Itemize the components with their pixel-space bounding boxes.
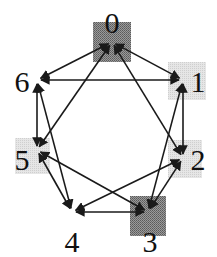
- node-label-6: 6: [15, 65, 30, 98]
- node-label-3: 3: [143, 225, 158, 257]
- graph-edges: [37, 44, 183, 212]
- node-highlight-boxes: [15, 22, 206, 236]
- node-label-1: 1: [191, 65, 206, 98]
- node-label-0: 0: [105, 6, 120, 39]
- node-label-4: 4: [65, 225, 80, 257]
- graph-diagram: 0123456: [0, 0, 217, 257]
- node-label-2: 2: [191, 143, 206, 176]
- node-label-5: 5: [15, 143, 30, 176]
- edge-5-4: [39, 153, 70, 208]
